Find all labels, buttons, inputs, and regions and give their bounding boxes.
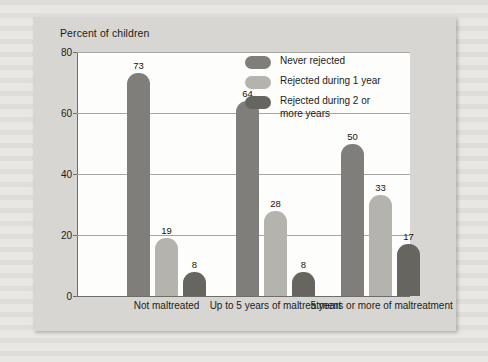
legend-item-label: Never rejected (280, 55, 345, 68)
chart-axis-title: Percent of children (60, 27, 149, 39)
bar-value-label: 33 (375, 182, 386, 193)
legend-item: Never rejected (245, 55, 450, 69)
bar: 73 (127, 73, 150, 296)
bar: 17 (397, 244, 420, 296)
bar: 8 (183, 272, 206, 296)
bar: 8 (292, 272, 315, 296)
bar-value-label: 8 (192, 259, 197, 270)
bar-value-label: 8 (301, 259, 306, 270)
bar-value-label: 50 (347, 131, 358, 142)
bar-value-label: 28 (270, 198, 281, 209)
bar-value-label: 17 (403, 231, 414, 242)
chart-legend: Never rejected Rejected during 1 year Re… (245, 55, 450, 126)
legend-swatch-icon (245, 76, 271, 89)
legend-item: Rejected during 1 year (245, 75, 450, 89)
y-axis-tick-label: 40 (61, 169, 72, 180)
y-axis-tick-label: 0 (66, 291, 72, 302)
legend-item-label: Rejected during 1 year (280, 75, 381, 88)
bar-value-label: 19 (161, 225, 172, 236)
bar: 28 (264, 211, 287, 296)
legend-item: Rejected during 2 or more years (245, 95, 450, 120)
y-axis-tick-label: 60 (61, 108, 72, 119)
y-axis-tick-label: 20 (61, 230, 72, 241)
y-axis-tick-label: 80 (61, 47, 72, 58)
legend-item-label: Rejected during 2 or more years (280, 95, 370, 120)
figure-panel: Percent of children 020406080 7319864288… (33, 17, 456, 331)
bar-value-label: 73 (133, 60, 144, 71)
legend-swatch-icon (245, 96, 271, 109)
bar: 50 (341, 144, 364, 297)
x-axis-category-label: 5 years or more of maltreatment (311, 300, 451, 313)
bar: 33 (369, 195, 392, 296)
bar: 19 (155, 238, 178, 296)
bar: 64 (236, 101, 259, 296)
legend-swatch-icon (245, 56, 271, 69)
